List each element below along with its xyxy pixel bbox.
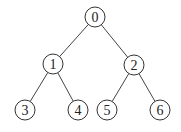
tree-node-4: 4: [68, 100, 88, 120]
edge-1-4: [58, 73, 73, 101]
node-label: 4: [75, 103, 82, 118]
tree-node-0: 0: [85, 7, 105, 27]
nodes: 0123456: [15, 7, 170, 120]
node-label: 6: [157, 103, 164, 118]
tree-node-5: 5: [97, 100, 117, 120]
tree-node-1: 1: [43, 54, 63, 74]
node-label: 5: [104, 103, 111, 118]
edge-0-1: [60, 24, 89, 56]
node-label: 3: [22, 103, 29, 118]
node-label: 1: [50, 57, 57, 72]
edge-2-6: [139, 74, 155, 102]
binary-tree-diagram: 0123456: [0, 0, 181, 132]
node-label: 2: [131, 58, 138, 73]
tree-node-6: 6: [150, 100, 170, 120]
tree-node-3: 3: [15, 100, 35, 120]
edge-1-3: [30, 73, 48, 102]
node-label: 0: [92, 10, 99, 25]
tree-node-2: 2: [124, 55, 144, 75]
edge-0-2: [101, 25, 127, 57]
edge-2-5: [112, 74, 129, 102]
